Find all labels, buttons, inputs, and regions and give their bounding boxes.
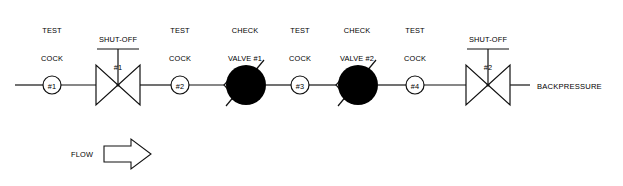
label-line: CHECK [227,26,264,35]
label-line: TEST [41,26,63,35]
label-test-cock-4: TEST COCK #4 [404,8,426,109]
label-line: #4 [404,82,426,91]
label-line: (CLOSED) [227,82,264,91]
label-line: #1 [99,63,137,72]
diagram-canvas [0,0,623,186]
label-line: #1 [41,82,63,91]
label-line: VALVE #2 [339,54,376,63]
label-shut-off-2: SHUT-OFF #2 [469,17,507,91]
label-line: TEST [169,26,191,35]
flow-label: FLOW [71,150,93,159]
label-test-cock-2: TEST COCK #2 [169,8,191,109]
label-line: COCK [169,54,191,63]
label-line: COCK [404,54,426,63]
label-line: #2 [169,82,191,91]
label-line: TEST [404,26,426,35]
label-line: SHUT-OFF [469,35,507,44]
label-test-cock-1: TEST COCK #1 [41,8,63,109]
label-line: SHUT-OFF [99,35,137,44]
label-line: COCK [289,54,311,63]
label-line: COCK [41,54,63,63]
label-line: (CLOSED) [339,82,376,91]
flow-arrow-icon [104,139,151,169]
label-line: CHECK [339,26,376,35]
label-line: TEST [289,26,311,35]
label-check-valve-2: CHECK VALVE #2 (CLOSED) [339,8,376,109]
backpressure-label: BACKPRESSURE [537,82,602,91]
label-line: #2 [469,63,507,72]
label-line: #3 [289,82,311,91]
label-shut-off-1: SHUT-OFF #1 [99,17,137,91]
label-check-valve-1: CHECK VALVE #1 (CLOSED) [227,8,264,109]
label-test-cock-3: TEST COCK #3 [289,8,311,109]
backflow-preventer-diagram: TEST COCK #1 SHUT-OFF #1 TEST COCK #2 CH… [0,0,623,186]
label-line: VALVE #1 [227,54,264,63]
